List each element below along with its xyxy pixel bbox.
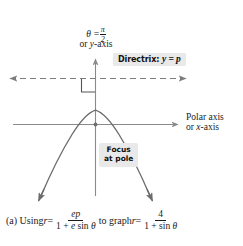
specific-numerator: 4 — [155, 209, 166, 221]
y-axis-alt-label: or y-axis — [61, 40, 131, 50]
directrix-equation: y = p — [162, 54, 181, 64]
or-prefix-x: or — [186, 122, 196, 132]
general-den-pre: 1 + — [56, 221, 71, 231]
directrix-callout: Directrix: y = p — [113, 53, 186, 66]
general-equation-fraction: ep 1 + e sin θ — [56, 209, 96, 232]
theta-equals-text: θ = — [86, 29, 99, 39]
figure-caption: (a) Using r = ep 1 + e sin θ to graph r … — [6, 209, 240, 232]
parabola-left-arrow — [39, 189, 45, 201]
focus-pole-point — [94, 123, 98, 127]
specific-denominator: 1 + sin θ — [144, 221, 177, 232]
caption-part-label: (a) Using — [6, 215, 44, 226]
caption-equals-2: = — [136, 215, 142, 226]
axis-suffix-x: -axis — [201, 122, 219, 132]
caption-connector: to graph — [99, 215, 132, 226]
polar-axis-label: Polar axis or x-axis — [186, 113, 224, 133]
specific-den-theta: θ — [173, 221, 178, 231]
focus-line1: Focus — [107, 145, 131, 154]
right-angle-mark — [82, 79, 96, 92]
caption-equals-1: = — [47, 215, 53, 226]
general-numerator: ep — [68, 209, 83, 221]
or-prefix: or — [80, 39, 90, 49]
directrix-label-text: Directrix: — [118, 55, 159, 64]
general-den-theta: θ — [91, 221, 96, 231]
parabola-right-arrow — [147, 189, 153, 201]
specific-equation-fraction: 4 1 + sin θ — [144, 209, 177, 232]
polar-axis-line1: Polar axis — [186, 112, 224, 122]
general-den-sin: sin — [75, 221, 91, 231]
axis-suffix: -axis — [94, 39, 112, 49]
polar-axis-line2: or x-axis — [186, 123, 224, 133]
specific-den-pre: 1 + sin — [144, 221, 172, 231]
general-denominator: 1 + e sin θ — [56, 221, 96, 232]
fraction-numerator-pi: π — [100, 26, 106, 36]
focus-line2: at pole — [104, 154, 133, 163]
focus-at-pole-callout: Focus at pole — [99, 143, 138, 167]
